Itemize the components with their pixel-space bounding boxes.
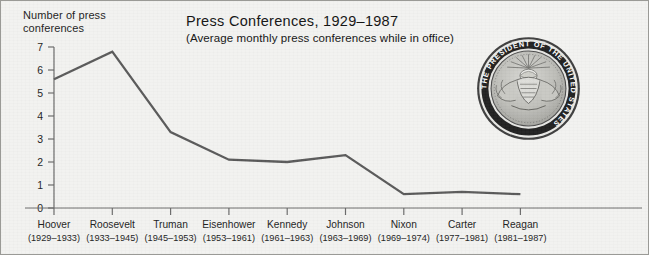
y-tick-label: 5 xyxy=(37,87,43,99)
y-axis-ticks: 01234567 xyxy=(37,41,54,214)
data-series-line xyxy=(54,52,520,195)
x-category-label: Nixon xyxy=(391,219,417,230)
x-category-label: Roosevelt xyxy=(90,219,135,230)
x-category-label: Kennedy xyxy=(267,219,308,230)
x-category-years: (1963–1969) xyxy=(319,233,371,243)
y-tick-label: 3 xyxy=(37,133,43,145)
x-category-label: Eisenhower xyxy=(202,219,256,230)
presidential-seal-icon: SEAL OF THE PRESIDENT OF THE UNITED STAT… xyxy=(475,35,582,142)
x-category-years: (1929–1933) xyxy=(28,233,80,243)
x-category-label: Truman xyxy=(153,219,188,230)
x-axis-ticks xyxy=(54,208,520,215)
chart-figure: Number of press conferences Press Confer… xyxy=(0,0,649,255)
x-category-years: (1969–1974) xyxy=(378,233,430,243)
x-axis-labels: Hoover(1929–1933)Roosevelt(1933–1945)Tru… xyxy=(28,219,547,243)
y-tick-label: 1 xyxy=(37,179,43,191)
x-category-label: Reagan xyxy=(503,219,539,230)
y-tick-label: 4 xyxy=(37,110,43,122)
y-tick-label: 6 xyxy=(37,64,43,76)
y-tick-label: 7 xyxy=(37,41,43,53)
x-category-years: (1961–1963) xyxy=(261,233,313,243)
x-category-years: (1953–1961) xyxy=(203,233,255,243)
y-tick-label: 2 xyxy=(37,156,43,168)
x-category-label: Carter xyxy=(448,219,477,230)
x-category-years: (1981–1987) xyxy=(494,233,546,243)
x-category-years: (1977–1981) xyxy=(436,233,488,243)
x-category-years: (1945–1953) xyxy=(145,233,197,243)
x-category-label: Johnson xyxy=(326,219,365,230)
x-category-label: Hoover xyxy=(38,219,71,230)
x-category-years: (1933–1945) xyxy=(86,233,138,243)
